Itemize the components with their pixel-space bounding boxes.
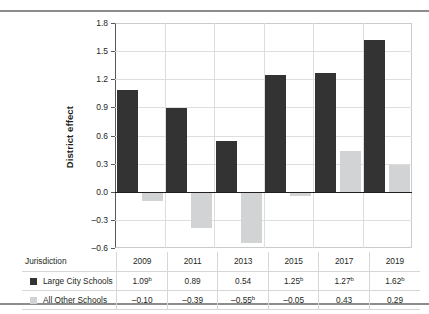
y-tick-label: 0.9 — [96, 102, 108, 112]
table-row-header-label: Jurisdiction — [22, 252, 117, 271]
data-cell: 1.09b — [117, 271, 168, 290]
category-separator — [214, 23, 215, 248]
chart-figure: District effect 1.81.51.20.90.60.30.0–0.… — [22, 16, 420, 301]
data-cell: 1.25b — [268, 271, 319, 290]
legend-swatch-icon — [30, 297, 37, 304]
bar-all-other-schools-2013 — [241, 192, 262, 244]
y-tick-mark — [111, 79, 115, 80]
y-tick-mark — [111, 220, 115, 221]
data-cell: 0.43 — [319, 290, 370, 309]
footnote-marker: b — [149, 276, 152, 282]
bar-all-other-schools-2011 — [191, 192, 212, 229]
bar-all-other-schools-2009 — [142, 192, 163, 201]
top-divider-rule — [0, 10, 429, 12]
y-tick-label: 1.2 — [96, 74, 108, 84]
y-tick-label: 1.8 — [96, 18, 108, 28]
legend-swatch-icon — [30, 278, 37, 285]
column-header-2009: 2009 — [117, 252, 168, 271]
y-tick-mark — [111, 23, 115, 24]
table-row: All Other Schools–0.10–0.39–0.55b–0.050.… — [22, 290, 420, 309]
column-header-2015: 2015 — [268, 252, 319, 271]
bar-large-city-schools-2009 — [117, 90, 138, 192]
zero-baseline — [115, 192, 412, 193]
y-tick-label: 0.6 — [96, 131, 108, 141]
bar-large-city-schools-2019 — [364, 40, 385, 192]
data-cell: 1.62b — [369, 271, 420, 290]
bar-large-city-schools-2015 — [265, 75, 286, 192]
y-tick-label: –0.3 — [91, 215, 108, 225]
data-table: Jurisdiction200920112013201520172019Larg… — [22, 252, 420, 310]
footnote-marker: b — [351, 276, 354, 282]
y-axis-title: District effect — [64, 106, 78, 168]
data-cell: –0.39 — [167, 290, 218, 309]
legend-item-all-other-schools: All Other Schools — [22, 290, 117, 309]
column-header-2017: 2017 — [319, 252, 370, 271]
bar-large-city-schools-2017 — [315, 73, 336, 192]
legend-label: All Other Schools — [43, 295, 107, 305]
legend-item-large-city-schools: Large City Schools — [22, 271, 117, 290]
y-tick-mark — [111, 164, 115, 165]
bar-large-city-schools-2013 — [216, 141, 237, 192]
footnote-marker: b — [300, 276, 303, 282]
y-tick-mark — [111, 51, 115, 52]
data-cell: –0.55b — [218, 290, 269, 309]
legend-label: Large City Schools — [43, 276, 113, 286]
data-cell: 0.89 — [167, 271, 218, 290]
data-cell: 1.27b — [319, 271, 370, 290]
column-header-2019: 2019 — [369, 252, 420, 271]
bar-all-other-schools-2017 — [340, 151, 361, 191]
y-tick-label: 1.5 — [96, 46, 108, 56]
data-cell: 0.29 — [369, 290, 420, 309]
y-tick-label: 0.0 — [96, 187, 108, 197]
bar-all-other-schools-2019 — [389, 165, 410, 192]
y-tick-mark — [111, 248, 115, 249]
y-tick-mark — [111, 107, 115, 108]
data-cell: –0.05 — [268, 290, 319, 309]
column-header-2011: 2011 — [167, 252, 218, 271]
bar-large-city-schools-2011 — [166, 108, 187, 191]
table-header-row: Jurisdiction200920112013201520172019 — [22, 252, 420, 271]
column-header-2013: 2013 — [218, 252, 269, 271]
y-tick-mark — [111, 136, 115, 137]
footnote-marker: b — [401, 276, 404, 282]
plot-area: 1.81.51.20.90.60.30.0–0.3–0.6 — [115, 23, 412, 248]
data-cell: 0.54 — [218, 271, 269, 290]
data-cell: –0.10 — [117, 290, 168, 309]
y-tick-label: 0.3 — [96, 159, 108, 169]
table-row: Large City Schools1.09b0.890.541.25b1.27… — [22, 271, 420, 290]
footnote-marker: b — [252, 295, 255, 301]
